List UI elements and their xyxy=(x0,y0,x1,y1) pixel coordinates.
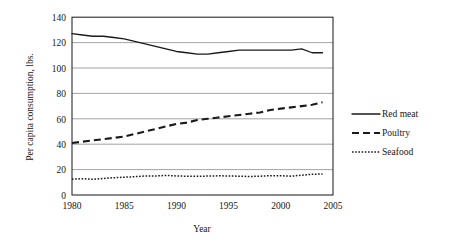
x-tick-label: 1980 xyxy=(63,201,82,211)
y-tick-label: 0 xyxy=(61,191,66,201)
y-tick-label: 120 xyxy=(52,38,67,48)
y-tick-label: 40 xyxy=(57,140,67,150)
y-tick-label: 20 xyxy=(57,165,67,175)
x-axis-tick-labels: 1980 1985 1990 1995 2000 2005 xyxy=(63,201,343,211)
chart-legend: Red meat Poultry Seafood xyxy=(352,109,419,157)
y-tick-label: 140 xyxy=(52,13,67,23)
y-tick-label: 60 xyxy=(57,115,67,125)
legend-label-seafood: Seafood xyxy=(382,147,413,157)
y-tick-label: 80 xyxy=(57,89,67,99)
legend-label-red-meat: Red meat xyxy=(382,109,419,119)
x-tick-label: 1990 xyxy=(167,201,186,211)
legend-label-poultry: Poultry xyxy=(382,128,410,138)
chart-figure: Per capita consumption, lbs. 140 120 100… xyxy=(0,0,456,250)
x-tick-label: 2000 xyxy=(271,201,290,211)
legend-item-poultry: Poultry xyxy=(352,128,410,138)
x-tick-label: 1995 xyxy=(219,201,238,211)
series-line-seafood xyxy=(72,174,323,179)
x-tick-label: 2005 xyxy=(324,201,343,211)
y-axis-title: Per capita consumption, lbs. xyxy=(25,53,35,160)
x-tick-label: 1985 xyxy=(115,201,134,211)
series-line-red-meat xyxy=(72,34,323,54)
x-axis-title: Year xyxy=(193,224,211,234)
legend-item-seafood: Seafood xyxy=(352,147,413,157)
series-line-poultry xyxy=(72,102,323,143)
y-axis-tick-labels: 140 120 100 80 60 40 20 0 xyxy=(52,13,67,201)
legend-item-red-meat: Red meat xyxy=(352,109,419,119)
y-tick-label: 100 xyxy=(52,64,67,74)
line-chart: Per capita consumption, lbs. 140 120 100… xyxy=(0,0,456,250)
